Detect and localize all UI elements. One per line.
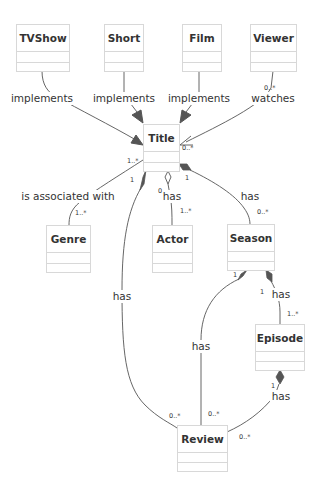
edge-label-title-review: has [112,290,132,303]
svg-text:has: has [163,190,182,202]
cardinality-label: 0..* [169,412,181,420]
composition-diamond-icon [276,370,284,384]
arrowhead-icon [132,110,143,123]
cardinality-label: 0..* [208,410,220,418]
cardinality-label: 0..* [182,144,194,152]
edge-label-title-genre: is associated with [21,190,115,203]
class-tvshow[interactable]: TVShow [17,25,70,72]
class-actor[interactable]: Actor [153,226,193,273]
arrowhead-icon [131,135,143,145]
class-season[interactable]: Season [228,225,275,271]
composition-diamond-icon [238,270,247,280]
class-name: Season [230,232,273,244]
cardinality-label: 1 [130,176,134,184]
edge-label-film-title: implements [168,92,230,105]
edge-title-review [122,188,177,428]
cardinality-label: 1 [260,288,264,296]
class-genre[interactable]: Genre [47,226,91,273]
svg-text:has: has [192,340,211,352]
cardinality-label: 1 [271,382,275,390]
svg-text:implements: implements [168,92,230,104]
edge-label-viewer-title: watches [250,92,296,105]
cardinality-label: 0..* [257,208,269,216]
edge-label-tvshow-title: implements [10,92,73,105]
class-review[interactable]: Review [178,426,228,472]
cardinality-label: 1..* [75,209,87,217]
cardinality-label: 0 [158,187,162,195]
edge-label-episode-review: has [270,390,290,403]
class-name: Film [189,32,214,44]
class-name: Title [148,132,175,144]
edge-label-season-review: has [191,340,211,353]
svg-text:has: has [241,190,260,202]
class-name: TVShow [19,32,67,44]
class-short[interactable]: Short [105,25,144,72]
composition-diamond-icon [266,270,272,282]
composition-diamond-icon [179,164,191,170]
svg-text:has: has [272,288,291,300]
class-name: Episode [257,332,303,344]
cardinality-label: 1 [185,174,189,182]
svg-text:has: has [272,390,291,402]
cardinality-label: 0..* [239,433,251,441]
svg-text:has: has [113,290,132,302]
class-episode[interactable]: Episode [256,325,305,371]
class-film[interactable]: Film [183,25,222,72]
class-viewer[interactable]: Viewer [251,25,297,72]
class-name: Viewer [253,32,294,44]
class-name: Genre [51,233,87,245]
svg-text:watches: watches [251,92,295,104]
aggregation-diamond-icon [165,171,171,184]
class-name: Short [108,32,140,44]
composition-diamond-icon [140,170,146,190]
class-title[interactable]: Title [144,125,180,172]
svg-text:is associated with: is associated with [21,190,115,202]
edge-label-title-actor: has [162,190,182,203]
svg-text:implements: implements [11,92,73,104]
cardinality-label: 1..* [287,310,299,318]
edge-label-season-episode: has [271,288,291,301]
edge-label-short-title: implements [93,92,155,105]
svg-text:implements: implements [93,92,155,104]
class-diagram: implements implements implements watches… [0,0,325,493]
cardinality-label: 0..* [264,84,276,92]
edge-label-title-season: has [240,190,260,203]
cardinality-label: 1..* [180,207,192,215]
class-name: Actor [157,233,190,245]
cardinality-label: 1 [233,271,237,279]
class-name: Review [181,433,224,445]
arrowhead-icon [180,110,191,123]
edge-tvshow-title [42,71,136,140]
cardinality-label: 1..* [127,157,139,165]
